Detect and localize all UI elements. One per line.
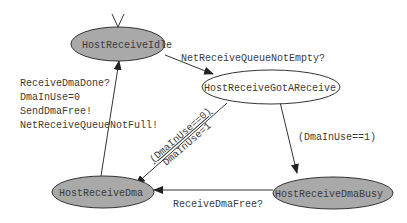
edge-label-dma-done-line4: NetReceiveQueueNotFull! [20, 120, 158, 131]
edge-gotareceive-to-dmabusy [280, 102, 297, 173]
edge-label-dma-done-line3: SendDmaFree! [20, 106, 92, 117]
edge-label-dma-done-line2: DmaInUse=0 [20, 92, 80, 103]
state-label-dma: HostReceiveDma [59, 188, 143, 199]
edge-label-dma-done-line1: ReceiveDmaDone? [20, 78, 110, 89]
initial-state-marker-icon [112, 14, 124, 27]
edge-label-dma-in-use-1: (DmaInUse==1) [298, 132, 376, 143]
state-machine-diagram: HostReceiveIdle HostReceiveGotAReceive H… [0, 0, 407, 223]
state-label-idle: HostReceiveIdle [82, 40, 172, 51]
state-label-dmabusy: HostReceiveDmaBusy [275, 189, 383, 200]
edge-label-queue-not-empty: NetReceiveQueueNotEmpty? [181, 53, 325, 64]
edge-label-receive-dma-free: ReceiveDmaFree? [173, 199, 263, 210]
state-label-gotareceive: HostReceiveGotAReceive [204, 83, 336, 94]
